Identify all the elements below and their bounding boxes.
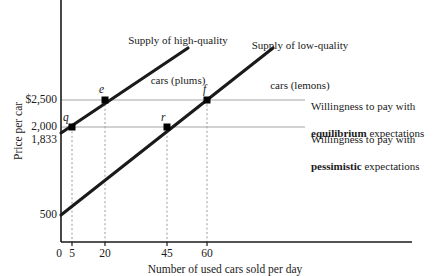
curve-label-lemons-line1: Supply of low-quality bbox=[240, 39, 360, 52]
y-tick-label-1833: 1,833 bbox=[0, 133, 57, 146]
point-label-r: r bbox=[161, 111, 165, 124]
legend-pessimistic-tail: expectations bbox=[362, 160, 420, 172]
x-tick-label-60: 60 bbox=[198, 247, 216, 260]
curve-label-plums-line2: cars (plums) bbox=[116, 74, 240, 87]
y-tick-label-2000: 2,000 bbox=[0, 120, 57, 133]
legend-pessimistic-line2: pessimistic expectations bbox=[311, 160, 434, 174]
curve-label-plums-line1: Supply of high-quality bbox=[116, 34, 240, 47]
curve-label-plums: Supply of high-quality cars (plums) bbox=[116, 7, 240, 114]
x-tick-label-20: 20 bbox=[96, 247, 114, 260]
x-tick-label-45: 45 bbox=[158, 247, 176, 260]
x-tick-label-5: 5 bbox=[65, 247, 79, 260]
point-marker-r bbox=[164, 124, 171, 131]
point-label-e: e bbox=[99, 83, 104, 96]
point-label-q: q bbox=[63, 111, 69, 124]
point-label-f: f bbox=[203, 83, 206, 96]
legend-pessimistic: Willingness to pay with pessimistic expe… bbox=[311, 119, 434, 188]
x-tick-label-0: 0 bbox=[52, 247, 66, 260]
point-marker-e bbox=[102, 97, 109, 104]
x-axis-title: Number of used cars sold per day bbox=[110, 263, 340, 276]
y-tick-label-500: 500 bbox=[0, 208, 57, 221]
legend-pessimistic-line1: Willingness to pay with bbox=[311, 133, 434, 147]
point-marker-q bbox=[69, 124, 76, 131]
legend-pessimistic-bold: pessimistic bbox=[311, 160, 362, 172]
y-tick-label-2500: $2,500 bbox=[0, 93, 57, 106]
legend-equilibrium-line1: Willingness to pay with bbox=[311, 100, 434, 114]
